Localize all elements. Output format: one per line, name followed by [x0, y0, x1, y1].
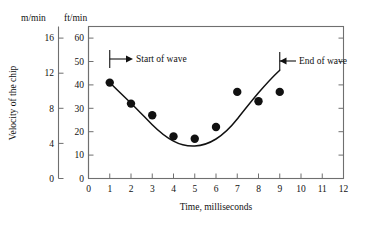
end-of-wave-arrow-head	[280, 58, 287, 65]
primary-y-tick-label-30: 30	[75, 104, 85, 114]
secondary-y-tick-label-8: 8	[49, 104, 54, 114]
x-tick-label-3: 3	[150, 184, 155, 194]
primary-unit-label: ft/min	[64, 13, 87, 23]
data-point	[148, 111, 156, 119]
y-axis-title: Velocity of the chip	[8, 65, 18, 140]
start-of-wave-arrow-head	[126, 56, 133, 63]
data-point	[212, 123, 220, 131]
x-tick-label-0: 0	[86, 184, 91, 194]
end-of-wave-label: End of wave	[299, 56, 347, 66]
start-of-wave-label: Start of wave	[136, 54, 187, 64]
x-tick-label-4: 4	[171, 184, 176, 194]
x-tick-label-8: 8	[256, 184, 261, 194]
x-tick-label-9: 9	[277, 184, 282, 194]
secondary-unit-label: m/min	[21, 13, 46, 23]
x-tick-label-2: 2	[129, 184, 134, 194]
secondary-y-ticks: 0 4 8 12 16	[45, 33, 64, 183]
primary-y-tick-label-0: 0	[79, 174, 84, 184]
x-tick-label-7: 7	[235, 184, 240, 194]
secondary-y-tick-label-12: 12	[45, 68, 55, 78]
primary-y-tick-label-60: 60	[75, 33, 85, 43]
end-of-wave-annotation: End of wave	[280, 52, 347, 70]
data-points	[106, 78, 284, 142]
primary-y-tick-label-20: 20	[75, 127, 85, 137]
x-tick-label-6: 6	[214, 184, 219, 194]
data-point	[276, 88, 284, 96]
primary-y-tick-label-40: 40	[75, 80, 85, 90]
plot-frame	[89, 27, 344, 179]
data-point	[233, 88, 241, 96]
data-point	[191, 135, 199, 143]
primary-y-ticks: 0 10 20 30 40 50 60	[75, 33, 94, 183]
x-tick-label-12: 12	[339, 184, 349, 194]
secondary-y-tick-label-0: 0	[49, 174, 54, 184]
data-point	[106, 78, 114, 86]
data-point	[127, 99, 135, 107]
x-axis-title: Time, milliseconds	[180, 202, 253, 212]
primary-y-tick-label-50: 50	[75, 57, 85, 67]
secondary-y-tick-label-4: 4	[49, 139, 54, 149]
velocity-of-chip-chart: m/min ft/min Velocity of the chip 0 4 8 …	[0, 0, 390, 227]
secondary-y-tick-label-16: 16	[45, 33, 55, 43]
data-point	[169, 132, 177, 140]
x-tick-label-1: 1	[107, 184, 112, 194]
x-tick-label-10: 10	[296, 184, 306, 194]
x-tick-label-5: 5	[192, 184, 197, 194]
data-point	[254, 97, 262, 105]
x-tick-label-11: 11	[318, 184, 327, 194]
primary-y-tick-label-10: 10	[75, 150, 85, 160]
x-ticks: 0 1 2 3 4 5 6 7 8 9 10 11 12	[86, 174, 348, 195]
start-of-wave-annotation: Start of wave	[110, 50, 187, 68]
chart-figure: m/min ft/min Velocity of the chip 0 4 8 …	[0, 0, 390, 227]
